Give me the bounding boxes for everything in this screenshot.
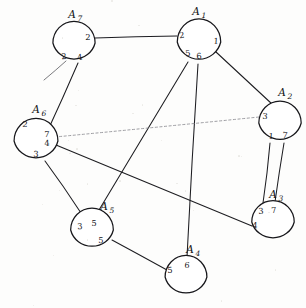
node-subscript-a3: 3 xyxy=(279,194,284,203)
port-label: 6 xyxy=(184,260,190,270)
graph-svg: A12156A2317A3374A465A5355A62743A7224 xyxy=(0,0,306,308)
paper-speck xyxy=(138,25,139,26)
paper-speck xyxy=(87,183,89,185)
port-label: 5 xyxy=(167,265,173,275)
node-subscript-a7: 7 xyxy=(78,14,83,23)
paper-speck xyxy=(238,155,240,157)
node-label-a5: A xyxy=(99,200,108,212)
node-label-a2: A xyxy=(277,86,286,98)
node-label-a6: A xyxy=(31,103,40,115)
paper-speck xyxy=(69,153,70,154)
paper-speck xyxy=(78,90,79,91)
paper-speck xyxy=(176,183,177,184)
port-label: 5 xyxy=(98,235,103,245)
graph-edge xyxy=(44,61,66,80)
node-label-a3: A xyxy=(268,188,277,200)
node-subscript-a5: 5 xyxy=(110,206,115,215)
graph-edge xyxy=(187,64,198,257)
port-label: 3 xyxy=(77,221,83,231)
port-label: 4 xyxy=(77,52,83,62)
graph-edge xyxy=(55,117,259,137)
graph-diagram-canvas: A12156A2317A3374A465A5355A62743A7224 xyxy=(0,0,306,308)
port-label: 3 xyxy=(262,111,268,121)
node-label-a1: A xyxy=(191,5,200,17)
paper-speck xyxy=(76,148,78,150)
paper-speck xyxy=(111,0,112,1)
paper-speck xyxy=(161,140,162,141)
node-subscript-a1: 1 xyxy=(202,11,207,20)
port-label: 3 xyxy=(258,206,264,216)
graph-edge xyxy=(95,36,177,38)
nodes-layer xyxy=(14,19,301,293)
port-label: 5 xyxy=(185,48,191,58)
node-subscript-a4: 4 xyxy=(195,249,201,258)
port-label: 1 xyxy=(213,36,219,46)
node-label-a4: A xyxy=(185,243,194,255)
graph-edge xyxy=(99,62,188,210)
port-label: 2 xyxy=(85,32,90,42)
node-label-a7: A xyxy=(67,8,76,20)
port-label: 7 xyxy=(282,130,288,140)
port-label: 1 xyxy=(268,131,274,141)
port-label: 7 xyxy=(271,205,277,215)
port-label: 2 xyxy=(61,51,67,61)
graph-edge xyxy=(45,161,81,213)
port-label: 3 xyxy=(33,149,39,159)
port-label: 5 xyxy=(91,218,96,228)
graph-edge xyxy=(112,240,167,270)
port-label: 4 xyxy=(44,138,50,148)
node-subscript-a6: 6 xyxy=(42,109,47,118)
graph-edge xyxy=(216,52,272,104)
port-label: 4 xyxy=(252,220,258,230)
paper-speck xyxy=(142,104,144,106)
node-subscript-a2: 2 xyxy=(287,92,293,101)
port-label: 2 xyxy=(22,119,28,129)
port-label: 2 xyxy=(179,30,185,40)
paper-speck xyxy=(119,180,121,182)
